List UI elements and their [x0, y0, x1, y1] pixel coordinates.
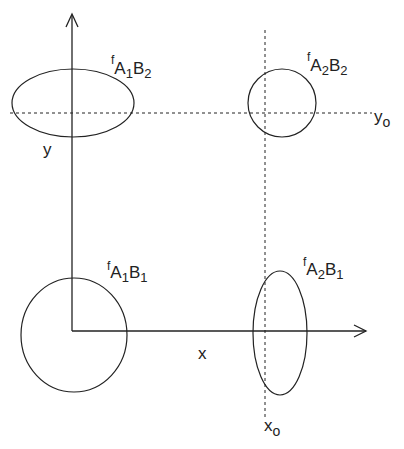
- y0-label: yo: [374, 107, 391, 130]
- label-f-A1B2: fA1B2: [111, 53, 152, 81]
- label-f-A2B1: fA2B1: [303, 255, 344, 282]
- label-f-A2B2: fA2B2: [307, 50, 348, 78]
- y-axis-label: y: [43, 140, 52, 159]
- x0-label: xo: [264, 416, 281, 439]
- ellipse-A2B1: [253, 271, 307, 395]
- circle-A2B2: [248, 69, 316, 137]
- label-f-A1B1: fA1B1: [107, 259, 148, 285]
- ellipse-A1B2: [12, 69, 134, 137]
- circle-A1B1: [21, 278, 127, 392]
- diagram-canvas: fA1B2 fA2B2 fA1B1 fA2B1 y x yo xo: [0, 0, 404, 449]
- x-axis-label: x: [198, 344, 207, 363]
